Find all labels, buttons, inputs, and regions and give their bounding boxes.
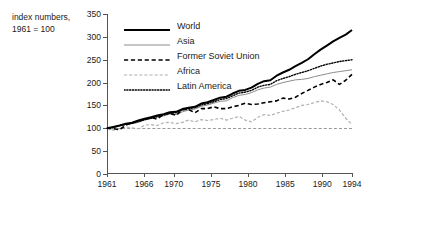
y-tick-label: 300: [87, 33, 101, 42]
x-tick-label: 1990: [313, 180, 332, 189]
legend-item-asia[interactable]: Asia: [124, 33, 260, 48]
y-tick-label: 200: [87, 78, 101, 87]
legend-label: Latin America: [177, 81, 232, 91]
legend-swatch-icon: [124, 21, 170, 31]
y-tick-label: 0: [96, 170, 101, 179]
legend-item-former-soviet-union[interactable]: Former Soviet Union: [124, 48, 260, 63]
legend-swatch-icon: [124, 36, 170, 46]
legend-item-africa[interactable]: Africa: [124, 63, 260, 78]
x-tick-label: 1970: [164, 180, 183, 189]
y-tick-label: 150: [87, 101, 101, 110]
x-tick-label: 1961: [98, 180, 117, 189]
legend-swatch-icon: [124, 81, 170, 91]
legend-label: World: [177, 21, 200, 31]
x-tick-label: 1975: [201, 180, 220, 189]
legend-label: Former Soviet Union: [177, 51, 260, 61]
legend-swatch-icon: [124, 66, 170, 76]
y-tick-label: 350: [87, 10, 101, 19]
x-tick-label: 1994: [343, 180, 362, 189]
series-line-africa: [107, 101, 352, 130]
x-tick-label: 1966: [135, 180, 154, 189]
chart-figure: index numbers, 1961 = 100 05010015020025…: [0, 0, 427, 227]
legend-label: Asia: [177, 36, 195, 46]
x-tick-label: 1980: [239, 180, 258, 189]
x-tick-mark: [352, 173, 353, 177]
legend-swatch-icon: [124, 51, 170, 61]
x-tick-label: 1985: [276, 180, 295, 189]
legend-label: Africa: [177, 66, 200, 76]
legend-item-world[interactable]: World: [124, 18, 260, 33]
y-tick-label: 50: [92, 147, 101, 156]
legend-item-latin-america[interactable]: Latin America: [124, 78, 260, 93]
y-tick-label: 100: [87, 124, 101, 133]
y-tick-label: 250: [87, 55, 101, 64]
plot-area: 050100150200250300350 196119661970197519…: [107, 14, 352, 174]
chart-legend: WorldAsiaFormer Soviet UnionAfricaLatin …: [124, 18, 260, 93]
